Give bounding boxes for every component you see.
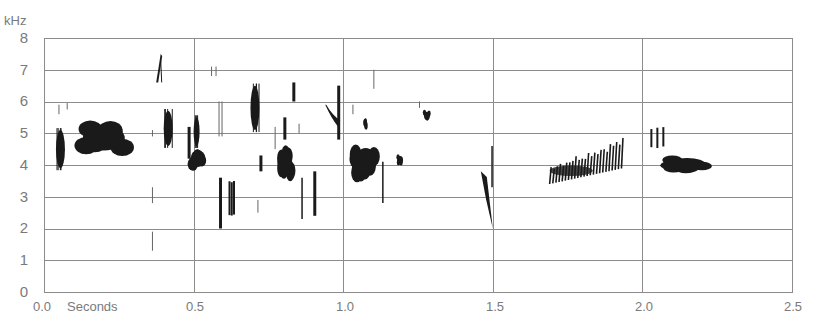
y-axis-unit-label: kHz bbox=[4, 13, 26, 28]
sound-event-note-5 bbox=[156, 54, 162, 83]
sound-event-note-17 bbox=[250, 84, 259, 132]
y-tick-6: 6 bbox=[20, 92, 28, 109]
sound-event-note-36 bbox=[423, 110, 431, 121]
sound-event-note-37 bbox=[481, 171, 493, 228]
y-tick-0: 0 bbox=[20, 283, 28, 300]
x-tick-0-0: 0.0 bbox=[33, 299, 51, 314]
sound-event-note-16 bbox=[230, 181, 234, 216]
y-tick-4: 4 bbox=[20, 156, 28, 173]
y-tick-5: 5 bbox=[20, 124, 28, 141]
sound-event-note-4 bbox=[74, 120, 134, 156]
x-tick-1-0: 1.0 bbox=[336, 299, 354, 314]
spectrogram-chart: kHz 8 7 6 5 4 3 2 1 0 0.0 Seconds 0.5 1.… bbox=[0, 0, 824, 334]
sound-event-note-39 bbox=[550, 138, 623, 184]
y-tick-1: 1 bbox=[20, 251, 28, 268]
x-axis-unit-label: Seconds bbox=[67, 299, 118, 314]
y-tick-8: 8 bbox=[20, 29, 28, 46]
y-axis-ticks: 8 7 6 5 4 3 2 1 0 bbox=[20, 29, 28, 300]
x-tick-2-5: 2.5 bbox=[784, 299, 802, 314]
y-tick-2: 2 bbox=[20, 219, 28, 236]
sound-event-note-13 bbox=[212, 67, 216, 77]
y-tick-7: 7 bbox=[20, 61, 28, 78]
sound-event-note-40 bbox=[651, 127, 663, 148]
sound-event-note-21 bbox=[277, 145, 295, 181]
spectrogram-marks bbox=[56, 54, 712, 251]
sound-event-note-41 bbox=[660, 156, 712, 174]
x-tick-0-5: 0.5 bbox=[186, 299, 204, 314]
sound-event-note-30 bbox=[363, 118, 367, 129]
x-tick-2-0: 2.0 bbox=[635, 299, 653, 314]
sound-event-note-32 bbox=[349, 145, 379, 183]
sound-event-note-14 bbox=[219, 102, 222, 137]
sound-event-note-6 bbox=[164, 109, 173, 148]
y-tick-3: 3 bbox=[20, 188, 28, 205]
sound-event-note-34 bbox=[396, 154, 403, 165]
x-axis-ticks: 0.0 Seconds 0.5 1.0 1.5 2.0 2.5 bbox=[33, 299, 802, 314]
x-tick-1-5: 1.5 bbox=[486, 299, 504, 314]
sound-event-note-1 bbox=[56, 128, 65, 170]
